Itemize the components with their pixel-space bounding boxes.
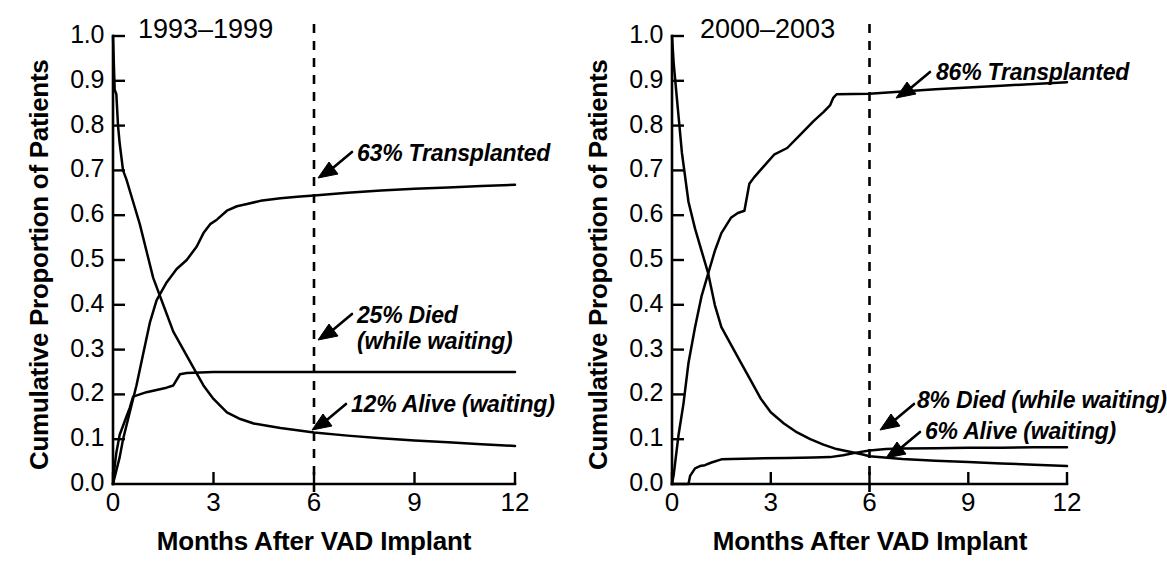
left-xtick-label-12: 12	[495, 489, 535, 516]
left-panel-title: 1993–1999	[138, 16, 273, 44]
left-ytick-label-1.0: 1.0	[48, 22, 104, 48]
right-arrow-alive	[886, 432, 920, 458]
left-ytick-label-0.7: 0.7	[48, 156, 104, 182]
right-ytick-label-0.2: 0.2	[607, 380, 663, 406]
left-arrow-transplanted	[318, 152, 352, 178]
left-arrow-died	[318, 314, 352, 340]
right-ytick-label-0.6: 0.6	[607, 201, 663, 227]
left-ytick-label-0.5: 0.5	[48, 246, 104, 272]
right-xtick-label-6: 6	[850, 489, 890, 516]
right-annotation-died: 8% Died (while waiting)	[917, 389, 1167, 412]
left-ytick-label-0.3: 0.3	[48, 336, 104, 362]
right-arrow-died	[880, 404, 914, 430]
left-annotation-alive: 12% Alive (waiting)	[351, 393, 555, 416]
left-arrow-alive	[312, 404, 346, 430]
right-annotation-transplanted: 86% Transplanted	[936, 61, 1129, 84]
left-ytick-label-0.2: 0.2	[48, 380, 104, 406]
left-annotation-transplanted: 63% Transplanted	[357, 142, 550, 165]
right-ytick-label-0.4: 0.4	[607, 291, 663, 317]
left-xtick-label-3: 3	[194, 489, 234, 516]
left-ytick-label-0.4: 0.4	[48, 291, 104, 317]
left-ytick-label-0.1: 0.1	[48, 425, 104, 451]
right-annotation-alive: 6% Alive (waiting)	[925, 420, 1116, 443]
right-xtick-label-3: 3	[751, 489, 791, 516]
right-panel-title: 2000–2003	[700, 16, 835, 44]
right-xtick-label-12: 12	[1047, 489, 1087, 516]
left-xtick-label-6: 6	[294, 489, 334, 516]
left-xtick-label-0: 0	[93, 489, 133, 516]
right-ytick-label-0.9: 0.9	[607, 67, 663, 93]
right-ytick-label-0.8: 0.8	[607, 112, 663, 138]
right-ytick-label-0.3: 0.3	[607, 336, 663, 362]
left-annotation-died-line1: 25% Died	[357, 304, 458, 327]
left-annotation-died-line2: (while waiting)	[357, 330, 512, 353]
right-ytick-label-0.7: 0.7	[607, 156, 663, 182]
left-x-axis-title: Months After VAD Implant	[114, 528, 514, 555]
right-x-axis-title: Months After VAD Implant	[670, 528, 1070, 555]
left-ytick-label-0.9: 0.9	[48, 67, 104, 93]
left-ytick-label-0.8: 0.8	[48, 112, 104, 138]
right-arrow-transplanted	[896, 72, 930, 98]
left-xtick-label-9: 9	[395, 489, 435, 516]
right-ytick-label-0.1: 0.1	[607, 425, 663, 451]
right-ytick-label-1.0: 1.0	[607, 22, 663, 48]
right-xtick-label-0: 0	[652, 489, 692, 516]
right-xtick-label-9: 9	[948, 489, 988, 516]
right-ytick-label-0.5: 0.5	[607, 246, 663, 272]
left-ytick-label-0.6: 0.6	[48, 201, 104, 227]
